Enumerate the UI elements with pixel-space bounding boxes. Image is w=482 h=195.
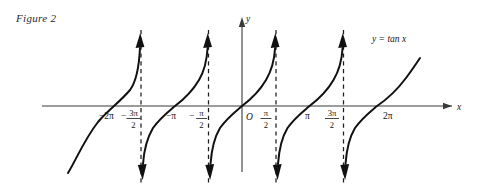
tick-label-half-pi-numerator: π (264, 108, 269, 118)
y-axis-label: y (245, 14, 251, 24)
tick-label-three-pi-over-2: 3π 2 (325, 108, 339, 130)
tick-label-neg-half-pi-denominator: 2 (199, 120, 203, 130)
tick-label-neg-two-pi: −2π (99, 111, 114, 121)
tan-branch-1-arrow-up (136, 33, 145, 48)
tick-label-neg-three-pi-over-2: − 3π 2 (121, 108, 141, 130)
tick-label-neg-pi: −π (166, 111, 176, 121)
x-axis-arrowhead (443, 103, 452, 109)
tick-label-neg-three-pi-numerator: 3π (129, 108, 138, 118)
tan-branch-5-arrow-down (340, 164, 349, 180)
tan-branch-5 (340, 58, 420, 180)
tick-label-neg-half-pi-sign: − (189, 111, 194, 121)
x-axis (42, 103, 452, 109)
tick-label-two-pi: 2π (383, 111, 393, 121)
tick-label-three-pi-denominator: 2 (330, 120, 334, 130)
x-axis-label: x (456, 102, 462, 112)
tan-branch-2-arrow-down (138, 164, 147, 180)
tick-label-neg-half-pi-numerator: π (199, 108, 204, 118)
origin-label: O (246, 112, 253, 122)
tan-branch-3-arrow-up (271, 33, 280, 48)
tan-branch-3-arrow-down (205, 164, 214, 180)
tan-branch-4-arrow-down (273, 164, 282, 180)
tick-label-neg-pi-over-2: − π 2 (189, 108, 207, 130)
tick-label-half-pi-denominator: 2 (264, 120, 268, 130)
y-axis-arrowhead (239, 17, 245, 27)
tan-branch-2-arrow-up (203, 33, 212, 48)
tick-label-neg-three-pi-denominator: 2 (131, 120, 135, 130)
tangent-graph-plot: −2π − 3π 2 −π − π 2 O π 2 π 3π 2 2π (0, 0, 482, 195)
tick-label-pi-over-2: π 2 (261, 108, 272, 130)
tick-label-neg-three-pi-sign: − (121, 111, 126, 121)
tick-label-three-pi-numerator: 3π (328, 108, 337, 118)
tick-label-pi: π (305, 111, 310, 121)
figure-container: Figure 2 (0, 0, 482, 195)
tan-branch-4-arrow-up (338, 33, 347, 48)
y-axis (239, 17, 245, 172)
tan-branch-1 (68, 33, 144, 173)
curve-equation-label: y = tan x (371, 34, 407, 44)
